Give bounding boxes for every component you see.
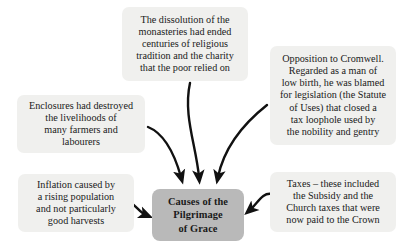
- arrow-cromwell-to-center: [218, 105, 267, 177]
- cause-label-inflation: Inflation caused by a rising population …: [36, 179, 116, 227]
- arrow-taxes-to-center: [250, 194, 272, 210]
- cause-label-enclosures: Enclosures had destroyed the livelihoods…: [29, 100, 133, 148]
- cause-label-cromwell: Opposition to Cromwell. Regarded as a ma…: [280, 53, 386, 138]
- diagram-canvas: The dissolution of the monasteries had e…: [0, 0, 408, 247]
- center-node-causes-of-pilgrimage-of-grace[interactable]: Causes of the Pilgrimage of Grace: [152, 189, 244, 241]
- cause-box-inflation[interactable]: Inflation caused by a rising population …: [18, 174, 134, 232]
- cause-box-enclosures[interactable]: Enclosures had destroyed the livelihoods…: [17, 95, 145, 153]
- cause-box-dissolution[interactable]: The dissolution of the monasteries had e…: [122, 7, 248, 81]
- cause-label-taxes: Taxes – these included the Subsidy and t…: [286, 178, 380, 226]
- cause-box-cromwell[interactable]: Opposition to Cromwell. Regarded as a ma…: [270, 46, 396, 145]
- arrow-dissolution-to-center: [188, 83, 199, 177]
- cause-box-taxes[interactable]: Taxes – these included the Subsidy and t…: [270, 172, 396, 232]
- arrow-enclosures-to-center: [148, 127, 181, 177]
- cause-label-dissolution: The dissolution of the monasteries had e…: [136, 14, 234, 74]
- center-node-label: Causes of the Pilgrimage of Grace: [168, 195, 228, 235]
